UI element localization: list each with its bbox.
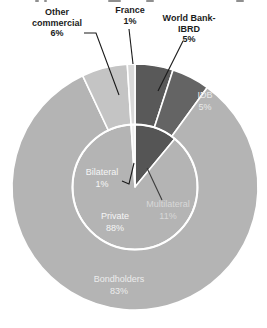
leader-line-france xyxy=(129,29,133,64)
segment-label-idb: IDB 5% xyxy=(180,90,230,113)
figure: Other commercial 6% France 1% World Bank… xyxy=(0,0,267,328)
callout-label-other-commercial: Other commercial 6% xyxy=(20,7,94,39)
segment-label-bondholders: Bondholders 83% xyxy=(87,274,151,297)
callout-label-world-bank-ibrd: World Bank- IBRD 5% xyxy=(152,13,226,45)
callout-label-france: France 1% xyxy=(106,5,154,26)
segment-label-private: Private 88% xyxy=(83,211,147,234)
segment-label-bilateral: Bilateral 1% xyxy=(70,167,134,190)
